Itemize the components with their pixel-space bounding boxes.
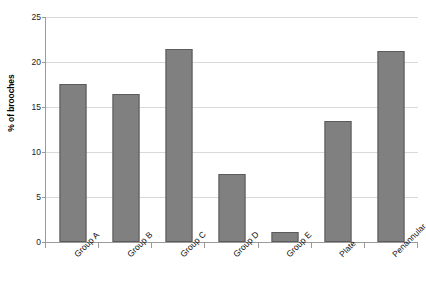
x-axis-tick-mark (311, 243, 312, 248)
bar-slot (259, 17, 312, 242)
y-axis-tick-label: 0 (1, 237, 41, 247)
x-axis-tick-mark (151, 243, 152, 248)
x-axis-tick-mark (417, 243, 418, 248)
y-axis-tick-label: 5 (1, 192, 41, 202)
bars-group (46, 17, 418, 242)
y-axis-tick-label: 15 (1, 102, 41, 112)
x-axis-tick-mark (258, 243, 259, 248)
bar-chart: % of brooches 0510152025 Group AGroup BG… (0, 0, 426, 303)
plot-area: 0510152025 (45, 17, 417, 242)
bar (378, 51, 405, 242)
bar-slot (312, 17, 365, 242)
bar-slot (365, 17, 418, 242)
x-axis-tick-mark (45, 243, 46, 248)
bar-slot (205, 17, 258, 242)
bar-slot (46, 17, 99, 242)
bar (325, 121, 352, 243)
bar-slot (99, 17, 152, 242)
bar (112, 94, 139, 243)
bar (59, 84, 86, 242)
x-axis-tick-mark (364, 243, 365, 248)
y-axis-tick-label: 20 (1, 57, 41, 67)
bar (165, 49, 192, 243)
y-axis-tick-label: 10 (1, 147, 41, 157)
x-axis-tick-mark (98, 243, 99, 248)
y-axis-tick-label: 25 (1, 12, 41, 22)
bar-slot (152, 17, 205, 242)
x-axis-line (45, 242, 417, 243)
x-axis-tick-mark (204, 243, 205, 248)
bar (218, 174, 245, 242)
